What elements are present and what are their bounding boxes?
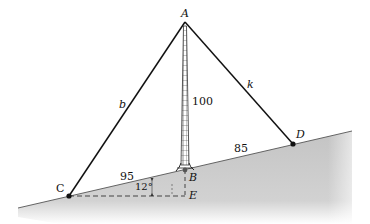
label-k: k <box>247 78 254 91</box>
guy-wire-AD <box>185 22 293 144</box>
label-B: B <box>188 171 197 184</box>
tower-guy-wire-diagram: A C B D E b k 100 95 85 12° <box>0 0 370 224</box>
label-b: b <box>119 98 126 111</box>
label-C: C <box>56 182 64 195</box>
point-B <box>183 168 188 173</box>
label-85: 85 <box>234 142 248 155</box>
label-100: 100 <box>192 95 213 108</box>
label-95: 95 <box>120 170 134 183</box>
label-angle-12: 12° <box>135 181 153 192</box>
point-D <box>290 141 295 146</box>
label-E: E <box>188 189 197 202</box>
label-A: A <box>180 7 189 20</box>
point-C <box>66 193 71 198</box>
label-D: D <box>295 128 305 141</box>
